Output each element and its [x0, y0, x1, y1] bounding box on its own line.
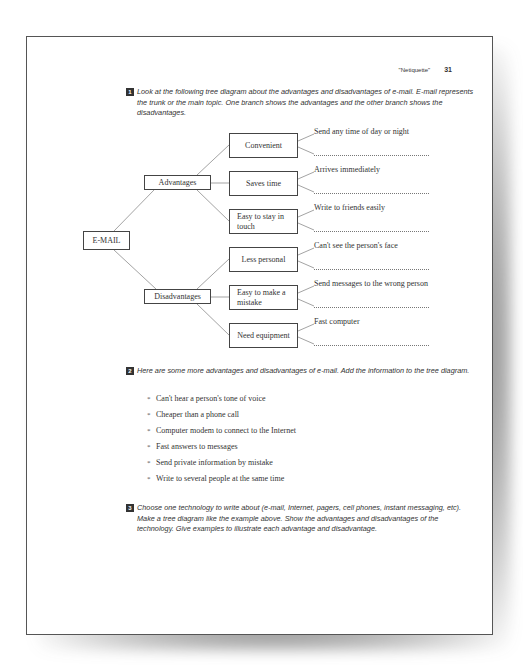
node-saves-time: Saves time [229, 171, 298, 196]
tree-root-email: E-MAIL [83, 231, 130, 250]
list-item: *Fast answers to messages [147, 439, 296, 455]
bullet-icon: * [147, 457, 156, 469]
workbook-page: "Netiquette" 31 1 Look at the following … [26, 36, 493, 635]
list-item: *Computer modem to connect to the Intern… [147, 423, 296, 439]
blank-line [314, 231, 429, 232]
example-saves-time: Arrives immediately [314, 165, 380, 174]
node-easy-to-stay-in-touch: Easy to stay in touch [229, 209, 298, 234]
list-item: *Can't hear a person's tone of voice [147, 391, 296, 407]
node-convenient: Convenient [229, 133, 298, 158]
example-less-personal: Can't see the person's face [314, 241, 398, 250]
blank-line [314, 345, 429, 346]
bullet-icon: * [147, 473, 156, 485]
exercise-number-badge: 3 [126, 504, 134, 512]
bullet-icon: * [147, 441, 156, 453]
bullet-icon: * [147, 393, 156, 405]
blank-line [314, 155, 429, 156]
bullet-icon: * [147, 409, 156, 421]
tree-diagram: E-MAIL Advantages Disadvantages Convenie… [27, 37, 492, 634]
blank-line [314, 193, 429, 194]
bullet-icon: * [147, 425, 156, 437]
example-easy-to-stay-in-touch: Write to friends easily [314, 203, 385, 212]
example-easy-to-make-a-mistake: Send messages to the wrong person [314, 279, 428, 288]
example-need-equipment: Fast computer [314, 317, 360, 326]
exercise-number-badge: 2 [126, 367, 134, 375]
branch-advantages: Advantages [144, 175, 211, 190]
node-less-personal: Less personal [229, 247, 298, 272]
exercise-3: 3 Choose one technology to write about (… [137, 503, 477, 535]
blank-line [314, 307, 429, 308]
node-need-equipment: Need equipment [229, 323, 298, 348]
list-item: *Cheaper than a phone call [147, 407, 296, 423]
node-easy-to-make-a-mistake: Easy to make a mistake [229, 285, 298, 310]
list-item: *Write to several people at the same tim… [147, 471, 296, 487]
additional-points-list: *Can't hear a person's tone of voice *Ch… [147, 391, 296, 487]
blank-line [314, 269, 429, 270]
list-item: *Send private information by mistake [147, 455, 296, 471]
exercise-2-instructions: Here are some more advantages and disadv… [137, 366, 469, 375]
example-convenient: Send any time of day or night [314, 127, 409, 136]
exercise-2: 2 Here are some more advantages and disa… [137, 366, 477, 377]
exercise-3-instructions: Choose one technology to write about (e-… [137, 503, 461, 533]
branch-disadvantages: Disadvantages [144, 289, 211, 304]
